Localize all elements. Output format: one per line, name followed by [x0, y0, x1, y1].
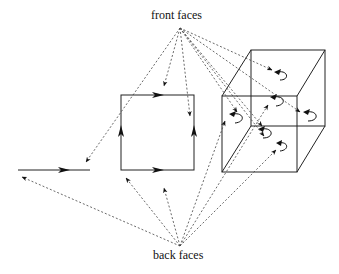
line-segment [18, 167, 90, 173]
square-polygon [118, 92, 197, 173]
face-orientation-arrows [233, 72, 316, 151]
orientation-diagram [0, 0, 339, 274]
back-faces-leaders [22, 105, 276, 246]
